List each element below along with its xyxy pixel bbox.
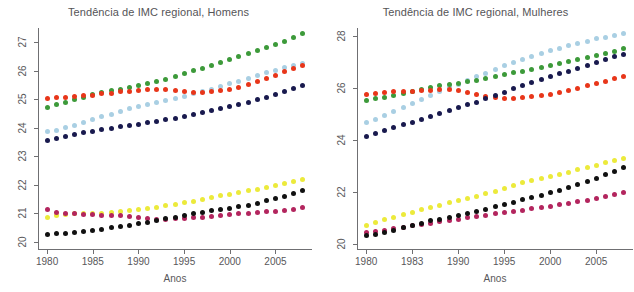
plot-area-homens: 2021222324252627198019851990199520002005… xyxy=(0,0,317,292)
data-point xyxy=(81,229,86,234)
series-black-series xyxy=(317,0,634,292)
plot-area-mulheres: 2022242628198019831990199520002005Anos xyxy=(317,0,634,292)
data-point xyxy=(209,208,214,213)
data-point xyxy=(474,209,479,214)
data-point xyxy=(557,188,562,193)
chart-panel-homens: Tendência de IMC regional, Homens 202122… xyxy=(0,0,317,292)
figure-container: Tendência de IMC regional, Homens 202122… xyxy=(0,0,634,292)
data-point xyxy=(127,223,132,228)
data-point xyxy=(173,215,178,220)
data-point xyxy=(236,204,241,209)
data-point xyxy=(502,202,507,207)
data-point xyxy=(109,225,114,230)
data-point xyxy=(529,195,534,200)
data-point xyxy=(548,190,553,195)
data-point xyxy=(227,206,232,211)
data-point xyxy=(493,204,498,209)
data-point xyxy=(282,194,287,199)
data-point xyxy=(291,191,296,196)
data-point xyxy=(391,228,396,233)
chart-panel-mulheres: Tendência de IMC regional, Mulheres 2022… xyxy=(317,0,634,292)
data-point xyxy=(483,207,488,212)
data-point xyxy=(191,211,196,216)
data-point xyxy=(520,197,525,202)
data-point xyxy=(136,221,141,226)
data-point xyxy=(456,213,461,218)
data-point xyxy=(255,201,260,206)
data-point xyxy=(72,230,77,235)
data-point xyxy=(603,172,608,177)
data-point xyxy=(246,203,251,208)
series-black-series xyxy=(0,0,317,292)
data-point xyxy=(200,210,205,215)
data-point xyxy=(145,220,150,225)
data-point xyxy=(447,215,452,220)
data-point xyxy=(539,193,544,198)
data-point xyxy=(300,188,305,193)
data-point xyxy=(612,169,617,174)
data-point xyxy=(163,216,168,221)
data-point xyxy=(273,196,278,201)
data-point xyxy=(465,211,470,216)
data-point xyxy=(264,198,269,203)
data-point xyxy=(90,228,95,233)
data-point xyxy=(99,227,104,232)
data-point xyxy=(511,200,516,205)
data-point xyxy=(364,233,369,238)
data-point xyxy=(154,218,159,223)
data-point xyxy=(373,232,378,237)
data-point xyxy=(566,185,571,190)
data-point xyxy=(575,182,580,187)
data-point xyxy=(621,165,626,170)
data-point xyxy=(218,207,223,212)
data-point xyxy=(585,179,590,184)
data-point xyxy=(437,217,442,222)
data-point xyxy=(410,223,415,228)
data-point xyxy=(419,221,424,226)
data-point xyxy=(54,231,59,236)
data-point xyxy=(118,224,123,229)
data-point xyxy=(428,218,433,223)
data-point xyxy=(382,230,387,235)
data-point xyxy=(594,176,599,181)
data-point xyxy=(63,231,68,236)
data-point xyxy=(182,213,187,218)
data-point xyxy=(45,232,50,237)
data-point xyxy=(401,225,406,230)
